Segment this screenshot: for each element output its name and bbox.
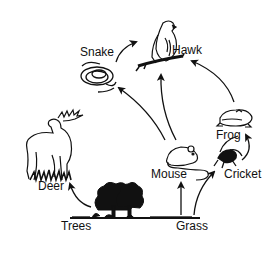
label-frog: Frog	[216, 129, 241, 141]
label-cricket: Cricket	[224, 168, 261, 180]
label-deer: Deer	[38, 180, 64, 192]
label-hawk: Hawk	[172, 44, 202, 56]
trees-icon	[95, 182, 144, 218]
arrow-frog-to-hawk	[192, 61, 234, 102]
label-trees: Trees	[61, 220, 91, 232]
label-snake: Snake	[80, 46, 114, 58]
snake-icon	[81, 62, 116, 92]
label-grass: Grass	[176, 220, 208, 232]
frog-icon	[217, 110, 252, 127]
arrow-trees-to-deer	[70, 184, 91, 207]
arrow-snake-to-hawk	[116, 42, 136, 62]
arrow-mouse-to-snake	[119, 88, 165, 140]
deer-icon	[27, 110, 84, 180]
food-web-diagram: Snake Hawk Frog Mouse Cricket Deer Trees…	[0, 0, 276, 255]
arrow-mouse-to-hawk	[161, 75, 176, 140]
label-mouse: Mouse	[151, 168, 187, 180]
arrow-cricket-to-frog	[242, 135, 249, 160]
